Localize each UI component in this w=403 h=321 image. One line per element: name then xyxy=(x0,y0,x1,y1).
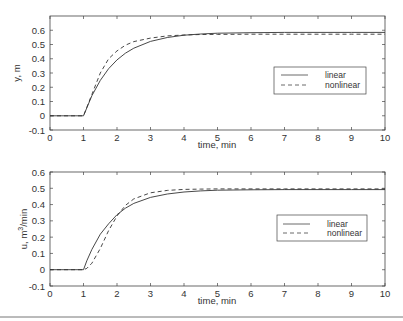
y-tick-label: 0.6 xyxy=(32,167,45,178)
top-legend: linear nonlinear xyxy=(274,67,366,94)
bottom-y-axis-label: u, m3/min xyxy=(17,209,29,249)
top-y-axis-label: y, m xyxy=(11,64,22,81)
y-tick-label: 0.3 xyxy=(32,215,45,226)
y-tick-label: 0.4 xyxy=(32,53,45,64)
x-tick-label: 8 xyxy=(315,132,320,143)
x-tick-label: 0 xyxy=(47,288,52,299)
x-tick-label: 6 xyxy=(248,132,253,143)
y-tick-label: 0.2 xyxy=(32,82,45,93)
x-tick-label: 0 xyxy=(47,132,52,143)
y-tick-label: 0 xyxy=(40,110,45,121)
x-tick-label: 2 xyxy=(114,132,119,143)
x-tick-label: 9 xyxy=(349,132,354,143)
y-tick-label: -0.1 xyxy=(29,125,45,136)
x-tick-label: 6 xyxy=(248,288,253,299)
top-plot: 012345678910-0.100.10.20.30.40.50.6 time… xyxy=(11,16,390,150)
x-tick-label: 3 xyxy=(148,288,153,299)
y-tick-label: 0 xyxy=(40,264,45,275)
y-tick-label: 0.6 xyxy=(32,25,45,36)
x-tick-label: 7 xyxy=(282,288,287,299)
y-tick-label: 0.1 xyxy=(32,96,45,107)
y-tick-label: 0.2 xyxy=(32,232,45,243)
x-tick-label: 4 xyxy=(181,132,186,143)
y-tick-label: 0.5 xyxy=(32,39,45,50)
bottom-legend: linear nonlinear xyxy=(277,215,367,241)
y-tick-label: 0.4 xyxy=(32,199,45,210)
x-tick-label: 10 xyxy=(380,132,391,143)
y-tick-label: 0.1 xyxy=(32,248,45,259)
y-tick-label: 0.5 xyxy=(32,183,45,194)
x-tick-label: 9 xyxy=(349,288,354,299)
x-tick-label: 1 xyxy=(81,288,86,299)
x-tick-label: 3 xyxy=(148,132,153,143)
bottom-x-axis-label: time, min xyxy=(198,295,237,306)
bottom-plot: 012345678910-0.100.10.20.30.40.50.6 time… xyxy=(17,167,390,307)
x-tick-label: 10 xyxy=(380,288,391,299)
x-tick-label: 8 xyxy=(315,288,320,299)
top-legend-linear-label: linear xyxy=(325,70,346,80)
top-legend-nonlinear-label: nonlinear xyxy=(325,80,360,90)
bottom-legend-nonlinear-label: nonlinear xyxy=(327,228,362,238)
x-tick-label: 7 xyxy=(282,132,287,143)
x-tick-label: 2 xyxy=(114,288,119,299)
figure: 012345678910-0.100.10.20.30.40.50.6 time… xyxy=(0,0,403,321)
x-tick-label: 4 xyxy=(181,288,186,299)
y-tick-label: 0.3 xyxy=(32,68,45,79)
y-tick-label: -0.1 xyxy=(29,281,45,292)
top-x-axis-label: time, min xyxy=(198,139,237,150)
x-tick-label: 1 xyxy=(81,132,86,143)
